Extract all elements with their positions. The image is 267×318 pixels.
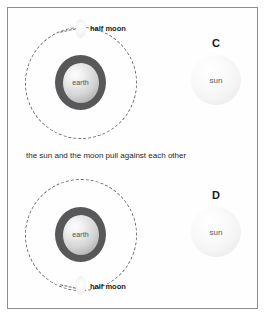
earth-core: earth	[63, 215, 99, 255]
earth-label: earth	[72, 79, 88, 86]
diagram-frame: half moon earth C sun the sun and the mo…	[7, 7, 258, 309]
earth-body: earth	[55, 55, 106, 110]
option-letter-d: D	[212, 189, 220, 201]
sun-label: sun	[210, 76, 223, 85]
half-moon-icon	[75, 19, 86, 38]
diagram-caption: the sun and the moon pull against each o…	[26, 151, 186, 160]
option-letter-c: C	[212, 37, 220, 49]
sun-body: sun	[191, 207, 241, 257]
earth-label: earth	[72, 231, 88, 238]
half-moon-icon	[75, 276, 86, 295]
sun-body: sun	[191, 55, 241, 105]
sun-label: sun	[210, 228, 223, 237]
earth-core: earth	[63, 63, 99, 103]
panel-option-c: half moon earth C sun	[8, 10, 259, 155]
half-moon-label: half moon	[90, 282, 126, 291]
half-moon-label: half moon	[90, 24, 126, 33]
panel-option-d: half moon earth D sun	[8, 166, 259, 308]
diagram-figure: half moon earth C sun the sun and the mo…	[0, 0, 267, 318]
earth-body: earth	[55, 207, 106, 262]
